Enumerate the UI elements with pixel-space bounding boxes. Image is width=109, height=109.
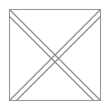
square-diagonal-lattice-figure [0,0,109,109]
diagram-canvas [0,0,109,109]
